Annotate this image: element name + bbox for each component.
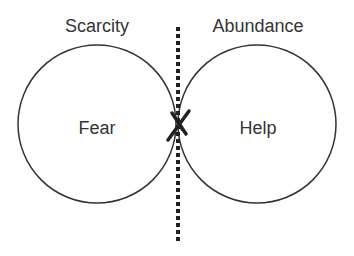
diagram-canvas xyxy=(0,0,354,256)
help-label: Help xyxy=(239,118,276,139)
scarcity-header: Scarcity xyxy=(65,16,129,37)
fear-label: Fear xyxy=(78,118,115,139)
abundance-header: Abundance xyxy=(212,16,303,37)
